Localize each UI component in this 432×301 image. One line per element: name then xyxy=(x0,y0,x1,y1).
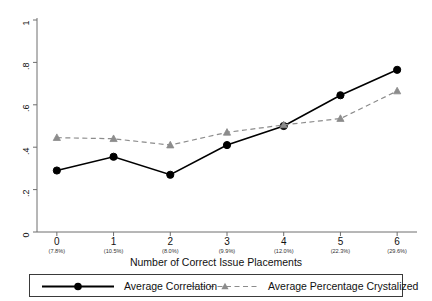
data-point-marker xyxy=(223,141,230,148)
x-axis-tick-label: 4 xyxy=(264,237,304,247)
data-point-marker xyxy=(337,115,344,122)
y-axis-tick-label: 1 xyxy=(22,20,31,46)
y-axis-tick-label: 0 xyxy=(22,232,31,258)
x-axis-percentage-label: (9.9%) xyxy=(202,248,252,254)
y-axis-tick-label: .8 xyxy=(22,62,31,88)
x-axis-tick-label: 6 xyxy=(377,237,417,247)
plot-area: 0.2.4.6.81 0123456 (7.8%)(10.5%)(8.0%)(9… xyxy=(0,0,432,301)
x-axis-percentage-label: (29.6%) xyxy=(372,248,422,254)
x-axis-tick-label: 2 xyxy=(150,237,190,247)
data-series xyxy=(53,66,400,178)
series-line-1 xyxy=(57,70,397,175)
x-axis-percentage-label: (22.3%) xyxy=(315,248,365,254)
data-point-marker xyxy=(167,171,174,178)
legend: Average Correlation Average Percentage C… xyxy=(29,274,403,297)
legend-marker-circle xyxy=(74,283,82,291)
legend-label-average-correlation: Average Correlation xyxy=(124,280,217,292)
data-point-marker xyxy=(394,87,401,94)
x-axis-percentage-label: (8.0%) xyxy=(145,248,195,254)
data-point-marker xyxy=(53,167,60,174)
data-point-marker xyxy=(110,153,117,160)
data-point-marker xyxy=(394,66,401,73)
x-axis-percentage-label: (12.0%) xyxy=(259,248,309,254)
x-axis-tick-label: 1 xyxy=(94,237,134,247)
x-axis-percentage-label: (10.5%) xyxy=(89,248,139,254)
y-axis-tick-label: .4 xyxy=(22,147,31,173)
x-axis-tick-label: 5 xyxy=(320,237,360,247)
y-axis-tick-label: .2 xyxy=(22,190,31,216)
legend-label-average-percentage-crystalized: Average Percentage Crystalized xyxy=(268,280,418,292)
data-point-marker xyxy=(337,92,344,99)
x-axis-title: Number of Correct Issue Placements xyxy=(0,256,432,268)
chart-figure: 0.2.4.6.81 0123456 (7.8%)(10.5%)(8.0%)(9… xyxy=(0,0,432,301)
x-axis-tick-label: 3 xyxy=(207,237,247,247)
y-axis-tick-label: .6 xyxy=(22,105,31,131)
series-line-2 xyxy=(57,91,397,145)
axes xyxy=(33,18,417,236)
x-axis-tick-label: 0 xyxy=(37,237,77,247)
x-axis-percentage-label: (7.8%) xyxy=(32,248,82,254)
